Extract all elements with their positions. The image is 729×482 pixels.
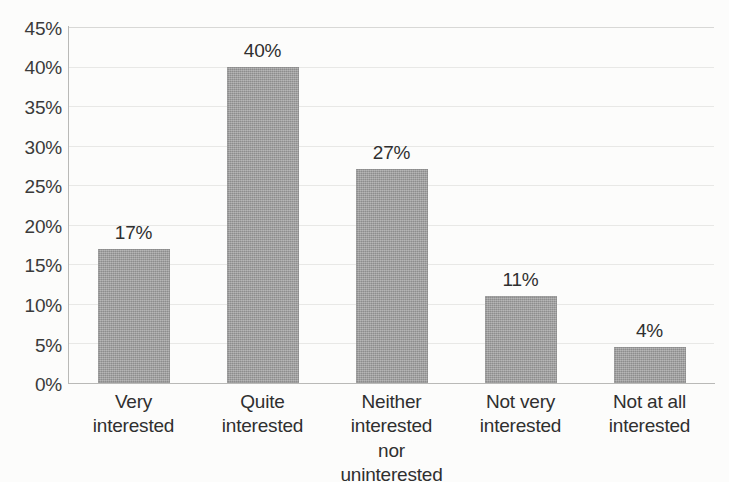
bar-slot: 17%	[69, 27, 198, 383]
y-tick-label: 35%	[2, 98, 62, 117]
x-axis-line	[68, 383, 715, 384]
x-tick-label: Not veryinterested	[456, 390, 585, 439]
bar-slot: 40%	[198, 27, 327, 383]
bar[interactable]	[485, 296, 557, 383]
bar-value-label: 11%	[502, 270, 538, 289]
bar[interactable]	[614, 347, 686, 383]
bar-value-label: 17%	[115, 223, 152, 242]
x-tick-label: Not at allinterested	[585, 390, 714, 439]
bar-slot: 11%	[456, 27, 585, 383]
y-tick-label: 25%	[2, 177, 62, 196]
x-tick-label: Neitherinterestednoruninterested	[327, 390, 456, 482]
y-tick-label: 0%	[2, 375, 62, 394]
y-tick-label: 5%	[2, 336, 62, 355]
bar-slot: 27%	[327, 27, 456, 383]
bar-chart: 45% 40% 35% 30% 25% 20% 15% 10% 5% 0% 17…	[0, 0, 729, 482]
bar-value-label: 27%	[373, 143, 410, 162]
bar-value-label: 40%	[244, 41, 281, 60]
bar[interactable]	[227, 67, 299, 383]
y-tick-label: 30%	[2, 138, 62, 157]
y-tick-label: 15%	[2, 256, 62, 275]
plot-area: 17% 40% 27% 11% 4%	[69, 27, 714, 383]
y-tick-label: 20%	[2, 217, 62, 236]
x-tick-label: Veryinterested	[69, 390, 198, 439]
bar[interactable]	[98, 249, 170, 384]
y-tick-label: 45%	[2, 19, 62, 38]
y-tick-label: 10%	[2, 296, 62, 315]
bar-value-label: 4%	[636, 321, 663, 340]
x-axis-labels: Veryinterested Quiteinterested Neitherin…	[69, 390, 714, 482]
y-tick-label: 40%	[2, 58, 62, 77]
bar[interactable]	[356, 169, 428, 383]
bar-slot: 4%	[585, 27, 714, 383]
y-axis-labels: 45% 40% 35% 30% 25% 20% 15% 10% 5% 0%	[0, 0, 62, 482]
x-tick-label: Quiteinterested	[198, 390, 327, 439]
